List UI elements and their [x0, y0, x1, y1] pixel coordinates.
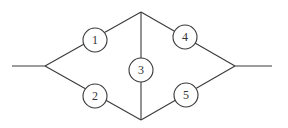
- node-5: 5: [174, 83, 198, 107]
- node-2-label: 2: [92, 89, 98, 103]
- node-4: 4: [173, 25, 197, 49]
- diagram-svg: 1 2 3 4 5: [0, 0, 288, 128]
- node-3-label: 3: [138, 63, 144, 77]
- node-3: 3: [129, 58, 153, 82]
- node-2: 2: [83, 84, 107, 108]
- bridge-network-diagram: 1 2 3 4 5: [0, 0, 288, 128]
- node-5-label: 5: [183, 88, 189, 102]
- node-4-label: 4: [182, 30, 188, 44]
- node-1: 1: [83, 28, 107, 52]
- node-1-label: 1: [92, 33, 98, 47]
